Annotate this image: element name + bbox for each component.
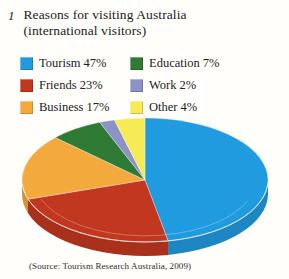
pie-chart [0,0,289,279]
figure-page: 1 Reasons for visiting Australia (intern… [0,0,289,279]
source-note: (Source: Tourism Research Australia, 200… [29,261,191,271]
